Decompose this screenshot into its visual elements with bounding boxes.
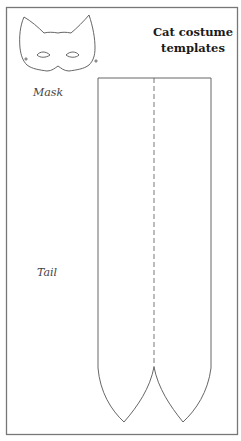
cat-mask-icon — [20, 15, 97, 71]
title-line-1: Cat costume — [148, 24, 238, 40]
template-artwork — [0, 0, 241, 441]
title-line-2: templates — [148, 40, 238, 56]
right-string-hole — [95, 60, 97, 62]
left-eye-hole — [37, 52, 50, 57]
tail-template — [98, 78, 211, 422]
mask-label: Mask — [33, 86, 63, 99]
page-title: Cat costume templates — [148, 24, 238, 56]
template-sheet: Cat costume templates Mask Tail — [0, 0, 241, 441]
right-eye-hole — [66, 52, 79, 57]
tail-label: Tail — [37, 266, 57, 279]
page-frame — [7, 8, 238, 435]
left-string-hole — [25, 58, 27, 60]
